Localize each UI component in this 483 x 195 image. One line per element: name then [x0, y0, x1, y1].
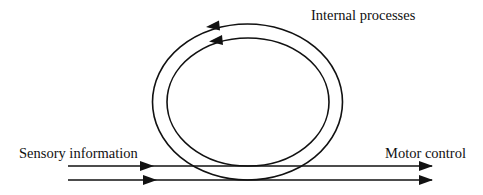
- lower-line-mid-arrowhead-icon: [143, 175, 157, 185]
- upper-line-mid-arrowhead-icon: [140, 161, 154, 171]
- upper-line-end-arrowhead-icon: [419, 161, 433, 171]
- diagram-canvas: Internal processes Sensory information M…: [0, 0, 483, 195]
- loop-diagram-graphic: [0, 0, 483, 195]
- motor-control-label: Motor control: [385, 146, 466, 161]
- sensory-information-label: Sensory information: [19, 146, 138, 161]
- inner-loop: [167, 38, 329, 166]
- lower-line-end-arrowhead-icon: [419, 175, 433, 185]
- outer-loop: [153, 24, 343, 180]
- internal-processes-label: Internal processes: [311, 8, 415, 23]
